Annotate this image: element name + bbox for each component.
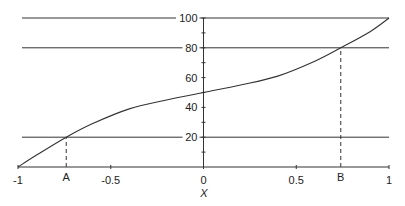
x-tick-label: 0.5	[289, 174, 304, 186]
y-tick-label: 40	[185, 101, 197, 113]
y-tick-label: 80	[185, 42, 197, 54]
y-tick-label: 60	[185, 72, 197, 84]
x-tick-label: 0	[200, 174, 206, 186]
marker-label-b: B	[337, 171, 344, 183]
y-tick-label: 100	[179, 12, 197, 24]
x-tick-label: 1	[386, 174, 392, 186]
x-tick-label: -0.5	[101, 174, 120, 186]
chart: 20406080100 -1-0.500.51 AB X	[0, 0, 405, 206]
y-axis-ticks: 20406080100	[176, 12, 206, 152]
x-tick-label: -1	[13, 174, 23, 186]
x-axis-label: X	[199, 187, 208, 199]
y-tick-label: 20	[185, 131, 197, 143]
marker-label-a: A	[63, 171, 71, 183]
x-axis-ticks: -1-0.500.51	[13, 165, 392, 186]
